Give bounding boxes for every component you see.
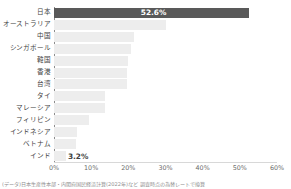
bar-row (54, 114, 277, 126)
category-label: マレーシア (0, 103, 51, 114)
category-label: ベトナム (0, 139, 51, 150)
bar-row: 3.2% (54, 150, 277, 162)
bar[interactable] (54, 56, 128, 66)
x-tick-label: 30% (158, 164, 172, 173)
category-labels: 日本オーストラリア中国シンガポール韓国香港台湾タイマレーシアフィリピンインドネシ… (0, 7, 51, 162)
category-label: インドネシア (0, 127, 51, 138)
category-label: 中国 (0, 31, 51, 42)
chart-footnote: (データ)日本生産性本部・内閣府国民経済計算(2022年)など 調査時点の為替レ… (2, 181, 291, 187)
x-tick-label: 40% (196, 164, 210, 173)
bar-row (54, 55, 277, 67)
category-label: 台湾 (0, 79, 51, 90)
bar-row: 52.6% (54, 7, 277, 19)
bar-row (54, 126, 277, 138)
bar[interactable] (54, 151, 66, 161)
category-label: フィリピン (0, 115, 51, 126)
bar[interactable] (54, 91, 105, 101)
category-label: インド (0, 151, 51, 162)
bar[interactable] (54, 139, 76, 149)
bar-row (54, 19, 277, 31)
bar[interactable] (54, 79, 127, 89)
bar-row (54, 79, 277, 91)
category-label: オーストラリア (0, 19, 51, 30)
category-label: 香港 (0, 67, 51, 78)
bar[interactable] (54, 115, 89, 125)
x-tick-label: 10% (84, 164, 98, 173)
bar-chart: 日本オーストラリア中国シンガポール韓国香港台湾タイマレーシアフィリピンインドネシ… (0, 0, 291, 189)
bar-row (54, 43, 277, 55)
x-axis-line (54, 162, 277, 163)
category-label: 韓国 (0, 55, 51, 66)
bar[interactable] (54, 44, 131, 54)
x-axis-ticks: 0%10%20%30%40%50%60% (54, 164, 277, 174)
x-tick-label: 50% (233, 164, 247, 173)
category-label: シンガポール (0, 43, 51, 54)
bar-row (54, 138, 277, 150)
x-tick-label: 60% (270, 164, 284, 173)
x-tick-label: 0% (49, 164, 59, 173)
bar[interactable] (54, 68, 127, 78)
plot-area: 52.6%3.2% (54, 7, 277, 162)
bar-row (54, 67, 277, 79)
bar-value-label: 3.2% (68, 151, 89, 162)
bar[interactable] (54, 32, 134, 42)
bar-row (54, 90, 277, 102)
bar[interactable] (54, 103, 105, 113)
category-label: 日本 (0, 7, 51, 18)
bar[interactable] (54, 127, 77, 137)
x-tick-label: 20% (121, 164, 135, 173)
category-label: タイ (0, 91, 51, 102)
bar[interactable] (54, 20, 166, 30)
bar-value-label: 52.6% (141, 7, 167, 18)
bar-row (54, 102, 277, 114)
bar-row (54, 31, 277, 43)
